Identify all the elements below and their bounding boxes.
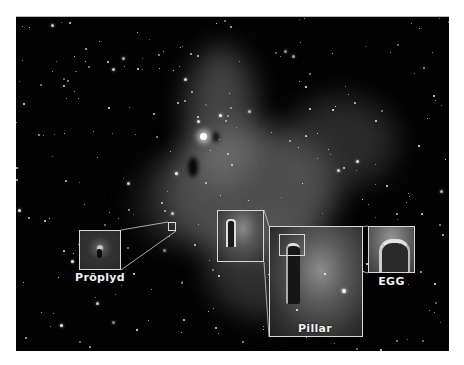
- pillar-label: Pillar: [290, 322, 340, 335]
- proplyd-object: [97, 249, 102, 258]
- proplyd-inset: [79, 230, 121, 270]
- egg-inset: [368, 226, 415, 273]
- pillar-shape: [226, 219, 236, 247]
- proplyd-source-box: [168, 222, 176, 231]
- egg-globule: [379, 239, 410, 273]
- star: [324, 273, 326, 275]
- star: [342, 289, 346, 293]
- pillar-overview-inset: [217, 210, 264, 262]
- egg-label: EGG: [368, 275, 415, 288]
- egg-source-box: [279, 234, 305, 256]
- connector-lines: [0, 0, 464, 365]
- star: [296, 309, 298, 311]
- proplyd-label: Pröplyd: [72, 271, 128, 284]
